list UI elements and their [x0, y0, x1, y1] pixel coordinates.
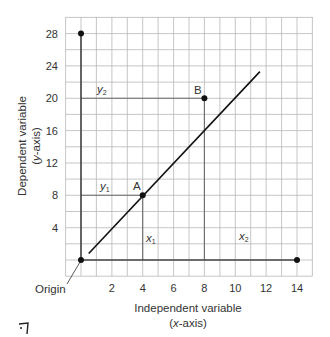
point-b — [201, 95, 207, 101]
x-tick: 8 — [201, 282, 207, 294]
y-tick: 28 — [46, 28, 58, 40]
y-tick: 8 — [52, 189, 58, 201]
y1-annotation: y1 — [99, 180, 110, 193]
point-a — [140, 192, 146, 198]
y-tick: 4 — [52, 222, 58, 234]
x-axis-title: Independent variable — [134, 302, 241, 314]
point-y-axis-28 — [78, 31, 84, 37]
corner-mark-icon — [19, 323, 28, 334]
y2-sub: 2 — [103, 89, 107, 96]
data-line — [89, 72, 260, 254]
y-tick-labels: 28 24 20 16 12 8 4 — [46, 28, 58, 234]
x-tick: 4 — [140, 282, 146, 294]
y-axis-subtitle: (y-axis) — [30, 127, 42, 165]
point-b-label: B — [194, 84, 202, 96]
x-tick: 10 — [229, 282, 241, 294]
y-tick: 24 — [46, 60, 58, 72]
x-tick-labels: 2 4 6 8 10 12 14 — [109, 282, 303, 294]
origin-label: Origin — [35, 283, 66, 295]
y-tick: 20 — [46, 92, 58, 104]
y-tick: 16 — [46, 125, 58, 137]
chart: A B Origin y2 y1 x1 x2 28 24 20 16 12 8 … — [0, 0, 330, 337]
y-axis-title: Dependent variable — [16, 96, 28, 196]
x2-annotation: x2 — [238, 230, 249, 243]
y2-annotation: y2 — [96, 83, 107, 96]
y1-sub: 1 — [106, 186, 110, 193]
point-a-label: A — [133, 180, 141, 192]
x-tick: 2 — [109, 282, 115, 294]
x-tick: 6 — [171, 282, 177, 294]
x1-annotation: x1 — [145, 232, 156, 245]
x1-sub: 1 — [152, 238, 156, 245]
x-sub-post: -axis) — [179, 317, 207, 329]
x-tick: 14 — [291, 282, 303, 294]
point-x-axis-14 — [294, 257, 300, 263]
y-tick: 12 — [46, 157, 58, 169]
x2-sub: 2 — [245, 236, 249, 243]
y-sub-post: -axis) — [30, 127, 42, 155]
x-axis-subtitle: (x-axis) — [169, 317, 207, 329]
origin-point — [78, 257, 84, 263]
x-tick: 12 — [260, 282, 272, 294]
origin-leader-line — [67, 262, 80, 284]
